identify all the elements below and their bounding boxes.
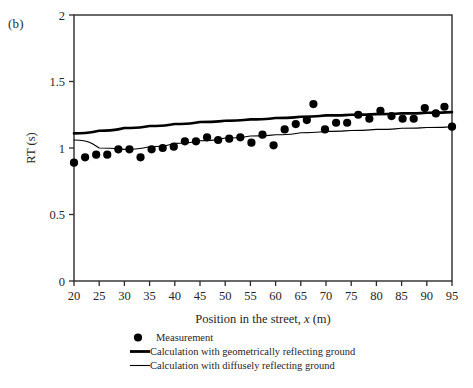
x-tick-label: 35 — [143, 289, 156, 303]
x-tick-label: 40 — [169, 289, 182, 303]
y-tick-label: 0 — [59, 275, 65, 289]
x-tick-label: 80 — [370, 289, 383, 303]
x-tick-label: 25 — [93, 289, 106, 303]
measurement-point — [81, 153, 89, 161]
measurement-point — [432, 109, 440, 117]
measurement-point — [421, 104, 429, 112]
measurement-point — [181, 137, 189, 145]
y-tick-label: 0.5 — [49, 208, 65, 222]
y-axis-ticks: 00.511.52 — [49, 9, 74, 289]
x-tick-label: 85 — [395, 289, 408, 303]
measurement-point — [125, 145, 133, 153]
measurement-point — [92, 151, 100, 159]
measurement-point — [136, 153, 144, 161]
measurement-point — [387, 112, 395, 120]
x-tick-label: 75 — [345, 289, 358, 303]
measurement-point — [292, 120, 300, 128]
x-tick-label: 95 — [446, 289, 459, 303]
measurement-point — [159, 144, 167, 152]
chart-legend: MeasurementCalculation with geometricall… — [130, 332, 356, 371]
figure-container: (b) 00.511.52 20253035404550556065707580… — [0, 0, 473, 388]
measurement-point — [225, 135, 233, 143]
measurement-point — [309, 100, 317, 108]
measurement-point — [410, 115, 418, 123]
measurement-point — [332, 119, 340, 127]
measurement-point — [258, 131, 266, 139]
y-axis-title: RT (s) — [24, 132, 38, 163]
measurement-point — [103, 151, 111, 159]
measurement-point — [148, 145, 156, 153]
measurement-point — [448, 123, 456, 131]
measurement-point — [343, 119, 351, 127]
x-tick-label: 50 — [219, 289, 232, 303]
x-tick-label: 60 — [269, 289, 282, 303]
x-tick-label: 20 — [68, 289, 81, 303]
measurement-points — [70, 100, 456, 167]
y-tick-label: 1 — [59, 142, 65, 156]
measurement-point — [440, 103, 448, 111]
x-axis-title: Position in the street, x (m) — [195, 312, 330, 326]
x-tick-label: 55 — [244, 289, 257, 303]
measurement-point — [399, 115, 407, 123]
measurement-point — [365, 115, 373, 123]
measurement-point — [281, 125, 289, 133]
y-tick-label: 1.5 — [49, 75, 65, 89]
legend-label: Calculation with diffusely reflecting gr… — [150, 360, 335, 371]
measurement-point — [203, 133, 211, 141]
measurement-point — [269, 141, 277, 149]
y-tick-label: 2 — [59, 9, 65, 23]
legend-label: Calculation with geometrically reflectin… — [150, 346, 356, 357]
x-tick-label: 65 — [295, 289, 308, 303]
legend-marker-dot — [134, 333, 142, 341]
measurement-point — [214, 136, 222, 144]
measurement-point — [321, 125, 329, 133]
legend-label: Measurement — [156, 332, 213, 343]
x-tick-label: 70 — [320, 289, 333, 303]
x-axis-ticks: 20253035404550556065707580859095 — [68, 281, 459, 303]
x-tick-label: 45 — [194, 289, 207, 303]
measurement-point — [170, 143, 178, 151]
measurement-point — [376, 107, 384, 115]
measurement-point — [354, 111, 362, 119]
measurement-point — [236, 133, 244, 141]
x-tick-label: 30 — [118, 289, 131, 303]
measurement-point — [114, 145, 122, 153]
measurement-point — [192, 137, 200, 145]
measurement-point — [247, 139, 255, 147]
measurement-point — [70, 159, 78, 167]
measurement-point — [303, 116, 311, 124]
chart-canvas: 00.511.52 202530354045505560657075808590… — [0, 0, 473, 388]
x-tick-label: 90 — [421, 289, 434, 303]
